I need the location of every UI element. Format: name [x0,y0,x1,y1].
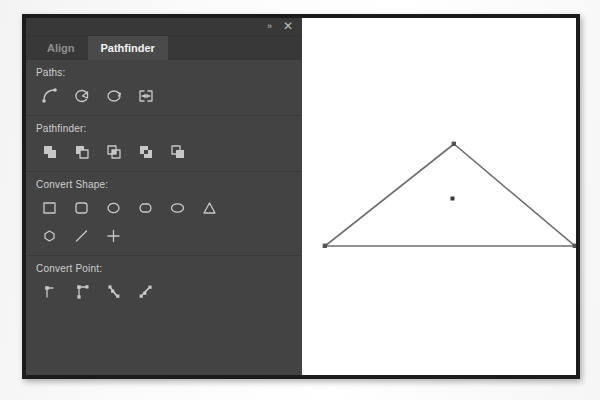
rectangle-icon[interactable] [34,195,66,221]
pathfinder-panel: » ✕ Align Pathfinder Paths: [26,18,302,375]
panel-tab-strip: Align Pathfinder [26,36,302,60]
anchor-point-top[interactable] [452,142,456,146]
ellipse-icon[interactable] [162,195,194,221]
panel-content: Paths: [26,60,302,375]
anchor-point-bottom-right[interactable] [573,244,576,248]
line-icon[interactable] [66,223,98,249]
paths-icon-row [26,82,302,110]
panel-title-bar[interactable]: » ✕ [26,18,302,36]
minus-back-icon[interactable] [162,139,194,165]
triangle-icon[interactable] [194,195,226,221]
plain-point-icon[interactable] [34,279,66,305]
section-paths: Paths: [26,60,302,116]
convert-point-icon-row [26,278,302,306]
application-window: » ✕ Align Pathfinder Paths: [26,18,576,375]
section-pathfinder: Pathfinder: [26,116,302,172]
close-icon[interactable]: ✕ [281,20,295,33]
intersect-shape-icon[interactable] [98,139,130,165]
double-chevron-right-icon[interactable]: » [262,20,276,33]
reverse-path-icon[interactable] [130,83,162,109]
convert-shape-icon-row-2 [26,222,302,250]
close-path-icon[interactable] [98,83,130,109]
corner-point-icon[interactable] [66,279,98,305]
polygon-icon[interactable] [34,223,66,249]
add-shape-icon[interactable] [34,139,66,165]
open-path-icon[interactable] [66,83,98,109]
symmetrical-point-icon[interactable] [130,279,162,305]
exclude-overlap-icon[interactable] [130,139,162,165]
screenshot-root: » ✕ Align Pathfinder Paths: [0,0,600,400]
orthogonal-line-icon[interactable] [98,223,130,249]
shape-center-point[interactable] [451,197,455,201]
tab-pathfinder[interactable]: Pathfinder [88,36,168,60]
section-label-convert-point: Convert Point: [26,263,302,278]
rounded-rectangle-icon[interactable] [66,195,98,221]
section-convert-point: Convert Point: [26,256,302,311]
smooth-point-icon[interactable] [98,279,130,305]
inverse-rounded-rectangle-icon[interactable] [130,195,162,221]
section-convert-shape: Convert Shape: [26,172,302,256]
beveled-rectangle-icon[interactable] [98,195,130,221]
subtract-shape-icon[interactable] [66,139,98,165]
screenshot-frame: » ✕ Align Pathfinder Paths: [22,14,580,379]
anchor-point-bottom-left[interactable] [323,244,327,248]
section-label-convert-shape: Convert Shape: [26,179,302,194]
section-label-paths: Paths: [26,67,302,82]
tab-align[interactable]: Align [34,36,88,60]
pathfinder-icon-row [26,138,302,166]
join-path-icon[interactable] [34,83,66,109]
section-label-pathfinder: Pathfinder: [26,123,302,138]
convert-shape-icon-row-1 [26,194,302,222]
